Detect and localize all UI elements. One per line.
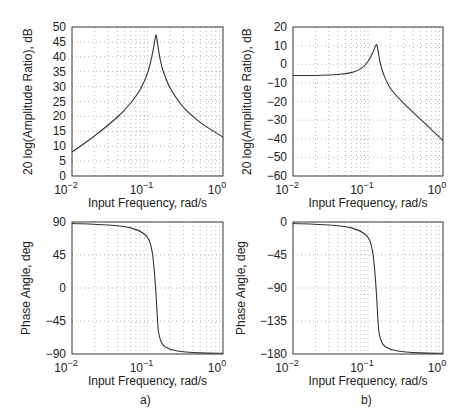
chart-b-phase: 0−45−90−135−18010−210−1100Input Frequenc… <box>234 215 446 388</box>
y-tick-label: 0 <box>280 215 287 229</box>
x-tick-label: 10−2 <box>275 180 299 197</box>
y-tick-label: −40 <box>267 132 288 146</box>
y-tick-label: −180 <box>260 347 287 361</box>
y-tick-label: 0 <box>59 281 66 295</box>
x-tick-label: 100 <box>428 180 446 197</box>
caption-a: a) <box>140 393 151 407</box>
x-tick-label: 100 <box>428 358 446 375</box>
y-tick-label: 30 <box>53 80 67 94</box>
y-tick-label: 40 <box>53 50 67 64</box>
x-axis-label: Input Frequency, rad/s <box>308 196 427 210</box>
chart-a-phase: 90450−45−9010−210−1100Input Frequency, r… <box>19 215 226 388</box>
y-tick-label: 20 <box>274 20 288 34</box>
data-series-line <box>293 45 443 141</box>
y-tick-label: −60 <box>267 169 288 183</box>
y-tick-label: −10 <box>267 76 288 90</box>
y-tick-label: 90 <box>53 215 67 229</box>
x-tick-label: 10−2 <box>54 180 78 197</box>
y-tick-label: −90 <box>46 347 67 361</box>
x-tick-label: 10−1 <box>130 358 154 375</box>
y-tick-label: 15 <box>53 124 67 138</box>
y-tick-label: 5 <box>59 154 66 168</box>
y-tick-label: −45 <box>267 248 288 262</box>
chart-a-magnitude: 0510152025303540455010−210−1100Input Fre… <box>21 20 226 210</box>
y-tick-label: 35 <box>53 65 67 79</box>
x-tick-label: 10−1 <box>350 180 374 197</box>
y-axis-label: 20 log(Amplitude Ratio), dB <box>240 28 254 175</box>
x-tick-label: 10−1 <box>130 180 154 197</box>
chart-b-magnitude: 20100−10−20−30−40−50−6010−210−1100Input … <box>240 20 446 210</box>
y-axis-label: 20 log(Amplitude Ratio), dB <box>21 28 35 175</box>
x-tick-label: 10−1 <box>350 358 374 375</box>
x-axis-label: Input Frequency, rad/s <box>88 374 207 388</box>
y-tick-label: 0 <box>59 169 66 183</box>
y-tick-label: −135 <box>260 314 287 328</box>
x-axis-label: Input Frequency, rad/s <box>308 374 427 388</box>
x-tick-label: 100 <box>208 180 226 197</box>
y-axis-label: Phase Angle, deg <box>19 241 33 335</box>
y-axis-label: Phase Angle, deg <box>234 241 248 335</box>
y-tick-label: 45 <box>53 248 67 262</box>
x-tick-label: 10−2 <box>275 358 299 375</box>
caption-b: b) <box>361 393 372 407</box>
y-tick-label: 10 <box>274 39 288 53</box>
y-tick-label: 0 <box>280 57 287 71</box>
y-tick-label: 20 <box>53 109 67 123</box>
y-tick-label: 10 <box>53 139 67 153</box>
y-tick-label: 45 <box>53 35 67 49</box>
y-tick-label: −45 <box>46 314 67 328</box>
y-tick-label: −90 <box>267 281 288 295</box>
x-axis-label: Input Frequency, rad/s <box>88 196 207 210</box>
data-series-line <box>72 35 223 152</box>
plot-frame <box>293 27 443 176</box>
bode-plot-figure: 0510152025303540455010−210−1100Input Fre… <box>0 0 462 416</box>
y-tick-label: −20 <box>267 95 288 109</box>
y-tick-label: 50 <box>53 20 67 34</box>
y-tick-label: 25 <box>53 95 67 109</box>
x-tick-label: 10−2 <box>54 358 78 375</box>
y-tick-label: −30 <box>267 113 288 127</box>
x-tick-label: 100 <box>208 358 226 375</box>
y-tick-label: −50 <box>267 150 288 164</box>
